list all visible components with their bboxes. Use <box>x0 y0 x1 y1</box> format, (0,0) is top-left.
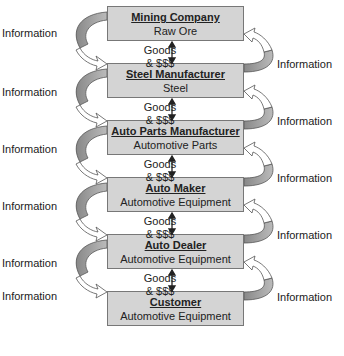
info-label-left: Information <box>2 86 57 98</box>
info-label-right: Information <box>277 58 332 70</box>
info-label-left: Information <box>2 200 57 212</box>
info-label-right: Information <box>277 115 332 127</box>
info-label-left: Information <box>2 290 57 302</box>
info-label-right: Information <box>277 172 332 184</box>
info-label-left: Information <box>2 27 57 39</box>
info-label-left: Information <box>2 257 57 269</box>
info-label-right: Information <box>277 291 332 303</box>
info-label-right: Information <box>277 229 332 241</box>
info-label-left: Information <box>2 143 57 155</box>
